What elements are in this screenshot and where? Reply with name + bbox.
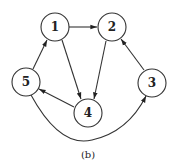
figure-caption: (b)	[81, 149, 95, 160]
node-1-label: 1	[51, 20, 59, 34]
node-4-label: 4	[84, 106, 92, 120]
node-3-label: 3	[148, 76, 156, 90]
graph-diagram: 1 2 3 4 5 (b)	[0, 0, 174, 166]
node-5-label: 5	[22, 75, 30, 89]
node-2: 2	[98, 13, 126, 41]
edge-4-to-5	[39, 89, 74, 107]
node-5: 5	[12, 68, 40, 96]
node-3: 3	[138, 69, 166, 97]
edge-5-to-1	[33, 40, 47, 69]
edge-1-to-4	[62, 40, 81, 99]
node-1: 1	[41, 13, 69, 41]
node-4: 4	[74, 99, 102, 127]
edge-3-to-2	[121, 39, 144, 70]
edge-2-to-4	[94, 41, 106, 99]
node-2-label: 2	[108, 20, 116, 34]
